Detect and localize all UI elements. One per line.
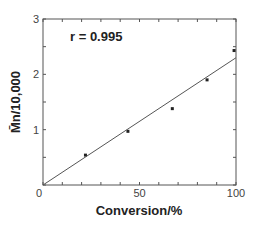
y-tick-label: 3	[33, 13, 39, 25]
data-point	[233, 49, 236, 52]
chart: 050100123 r = 0.995 Conversion/% M̄n/10,…	[0, 0, 253, 225]
fit-line	[43, 58, 236, 185]
data-series	[43, 49, 236, 185]
data-point	[171, 107, 174, 110]
y-tick-label: 2	[33, 68, 39, 80]
x-tick-label: 0	[36, 187, 42, 199]
x-tick-label: 50	[133, 187, 145, 199]
correlation-annotation: r = 0.995	[70, 29, 122, 44]
y-axis-title: M̄n/10,000	[8, 71, 23, 133]
x-axis-title: Conversion/%	[96, 203, 183, 218]
y-tick-label: 1	[33, 124, 39, 136]
data-point	[206, 78, 209, 81]
x-tick-label: 100	[227, 187, 245, 199]
